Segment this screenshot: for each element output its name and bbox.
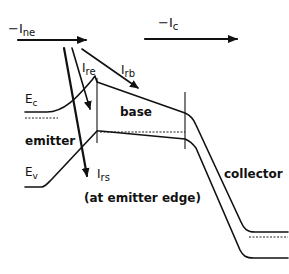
emitter-label: emitter [25,134,75,148]
bjt-band-diagram: −Ine −Ic Irb Ire Irs Ec Ev emitter base … [0,0,289,274]
ire-current-arrow [72,48,90,109]
conduction-band-edge [25,76,288,232]
ec-label: Ec [25,92,38,108]
base-label: base [120,105,152,119]
irs-label: Irs [97,167,110,183]
emitter-edge-annotation: (at emitter edge) [84,191,201,205]
ic-label: −Ic [158,15,178,32]
ine-label: −Ine [8,21,35,38]
ev-label: Ev [25,165,39,181]
irb-label: Irb [121,63,135,79]
collector-label: collector [224,167,283,181]
ire-label: Ire [82,61,96,77]
